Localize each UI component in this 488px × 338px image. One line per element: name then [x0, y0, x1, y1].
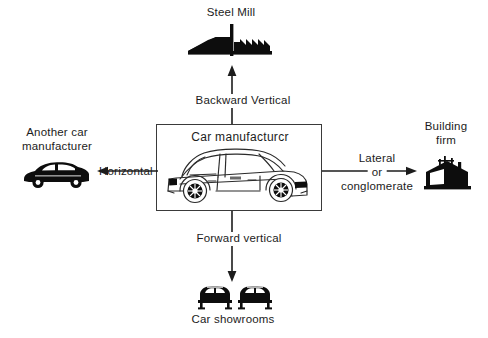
factory-icon: [186, 24, 276, 64]
house-construction-icon: [418, 156, 476, 196]
central-node-label: Car manufacturcr: [191, 130, 289, 144]
connector-label-lateral-line2: or: [368, 166, 387, 180]
connector-label-lateral-line3: conglomerate: [337, 180, 417, 194]
central-node-car-manufacturer: Car manufacturcr: [156, 124, 322, 211]
connector-label-lateral-line1: Lateral: [355, 152, 400, 166]
connector-label-forward-vertical: Forward vertical: [192, 232, 287, 246]
two-cars-front-icon: [196, 281, 274, 311]
connector-label-backward-vertical: Backward Vertical: [191, 94, 296, 108]
connector-label-horizontal: Horizontal: [99, 165, 153, 179]
node-label-building-firm-line1: Building: [425, 120, 468, 134]
node-label-another-car-manufacturer-line2: manufacturer: [22, 140, 92, 154]
node-label-car-showrooms: Car showrooms: [191, 313, 274, 327]
car-side-silhouette-icon: [21, 159, 91, 191]
node-label-building-firm-line2: firm: [436, 134, 456, 148]
node-label-steel-mill: Steel Mill: [207, 6, 256, 20]
node-label-another-car-manufacturer-line1: Another car: [26, 126, 88, 140]
diagram-canvas: Steel Mill Backward Vertical Car manuf: [0, 0, 488, 338]
car-side-outline-icon: [164, 146, 316, 208]
connector-forward-vertical: [224, 211, 240, 283]
